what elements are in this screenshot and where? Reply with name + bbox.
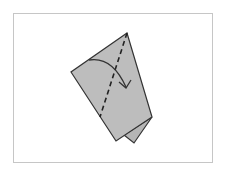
origami-diagram <box>0 0 226 170</box>
paper-front-layer <box>71 33 152 141</box>
